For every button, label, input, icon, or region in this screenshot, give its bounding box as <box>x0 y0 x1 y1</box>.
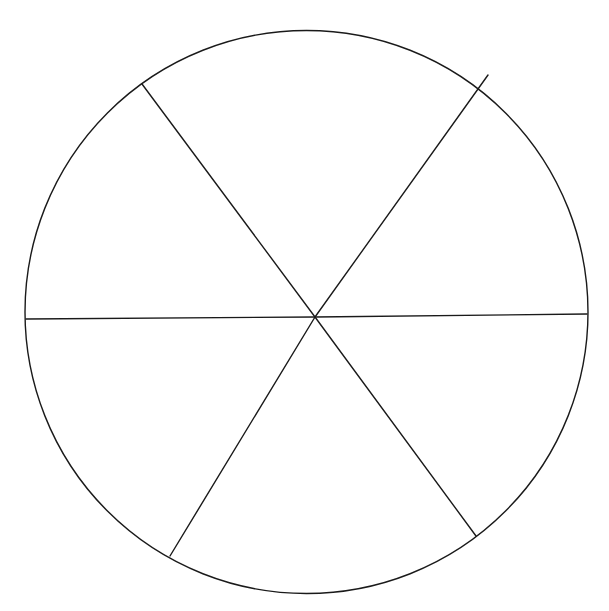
outer-circle <box>25 31 588 594</box>
spokes-group <box>26 75 587 556</box>
spoke-left <box>26 317 315 319</box>
spoke-top-right <box>315 75 488 317</box>
spoke-right <box>315 314 587 317</box>
spoke-top-left <box>142 84 315 317</box>
six-segment-circle-diagram <box>0 0 609 611</box>
spoke-bottom-left <box>170 317 315 556</box>
diagram-canvas <box>0 0 609 611</box>
spoke-bottom-right <box>315 317 476 536</box>
